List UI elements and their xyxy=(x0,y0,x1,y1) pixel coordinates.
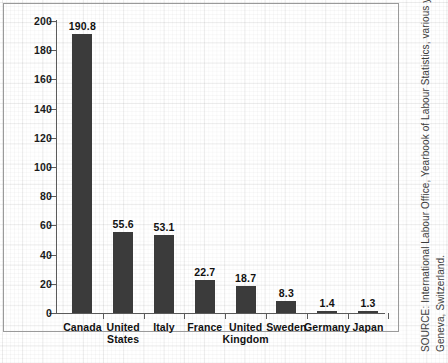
x-axis-tick-mark xyxy=(307,313,308,319)
x-axis-category-label: Canada xyxy=(63,321,102,333)
y-axis-tick-label: 140 xyxy=(34,103,52,115)
x-axis-tick-mark xyxy=(266,313,267,319)
bar-value-label: 22.7 xyxy=(194,266,215,278)
x-axis-tick-mark xyxy=(184,313,185,319)
x-axis-tick-mark xyxy=(348,313,349,319)
y-axis-tick-label: 200 xyxy=(34,15,52,27)
y-axis-tick-label: 20 xyxy=(40,278,52,290)
bar[interactable] xyxy=(195,280,215,313)
bar[interactable] xyxy=(358,311,378,313)
y-axis-tick-label: 60 xyxy=(40,219,52,231)
bar-value-label: 55.6 xyxy=(113,218,134,230)
bar-chart-figure: Days Lost to Strikes per Thousand Worker… xyxy=(0,0,448,363)
x-axis-category-label: Germany xyxy=(304,321,350,333)
y-axis-tick-label: 180 xyxy=(34,44,52,56)
x-axis-tick-mark xyxy=(144,313,145,319)
y-axis-tick-label: 120 xyxy=(34,132,52,144)
bar[interactable] xyxy=(317,311,337,313)
source-note-line-1: SOURCE: International Labour Office, Yea… xyxy=(420,0,431,352)
x-axis-category-label: Japan xyxy=(353,321,384,333)
x-axis-line xyxy=(56,313,385,314)
bar-value-label: 53.1 xyxy=(153,221,174,233)
x-axis-tick-mark xyxy=(103,313,104,319)
x-axis-category-label: United States xyxy=(107,321,140,345)
x-axis-category-label: United Kingdom xyxy=(222,321,268,345)
x-axis-category-label: Italy xyxy=(153,321,175,333)
y-axis-tick-label: 0 xyxy=(46,307,52,319)
y-axis-tick-label: 40 xyxy=(40,249,52,261)
plot-area: 020406080100120140160180200 xyxy=(56,21,384,313)
bar[interactable] xyxy=(276,301,296,313)
y-axis-tick-label: 100 xyxy=(34,161,52,173)
bar-value-label: 1.3 xyxy=(360,297,375,309)
bar[interactable] xyxy=(113,232,133,313)
bar[interactable] xyxy=(72,34,92,313)
bar-value-label: 190.8 xyxy=(69,20,96,32)
bar[interactable] xyxy=(236,286,256,313)
bar-value-label: 1.4 xyxy=(320,297,335,309)
x-axis-category-label: France xyxy=(187,321,222,333)
x-axis-category-label: Sweden xyxy=(266,321,306,333)
bar[interactable] xyxy=(154,235,174,313)
source-note: SOURCE: International Labour Office, Yea… xyxy=(408,0,448,363)
y-axis-tick-label: 80 xyxy=(40,190,52,202)
source-note-line-2: Geneva, Switzerland. xyxy=(435,255,446,352)
bar-value-label: 18.7 xyxy=(235,272,256,284)
x-axis-tick-mark xyxy=(388,313,389,319)
y-axis-tick-label: 160 xyxy=(34,73,52,85)
x-axis-tick-mark xyxy=(225,313,226,319)
bar-value-label: 8.3 xyxy=(279,287,294,299)
